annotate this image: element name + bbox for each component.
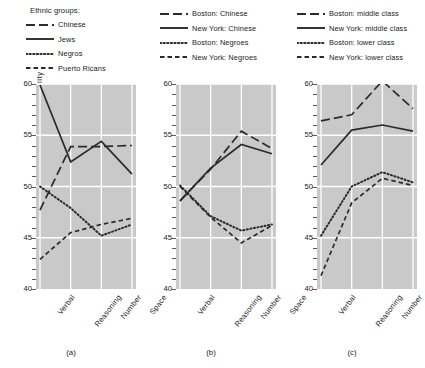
legend-item-b-0[interactable]: Boston: Chinese — [160, 7, 248, 20]
legend-item-c-3[interactable]: New York: lower class — [297, 51, 403, 64]
x-tick-label: Verbal — [337, 293, 358, 316]
y-tick-label: 55 — [152, 131, 172, 139]
legend-item-b-3[interactable]: New York: Negroes — [160, 51, 257, 64]
y-tick-label: 45 — [12, 234, 32, 242]
y-axis-ticks: 4045505560 — [150, 84, 172, 289]
y-tick-label: 50 — [152, 183, 172, 191]
legend-item-c-1[interactable]: New York: middle class — [297, 22, 407, 35]
legend-line-swatch-solid-icon — [26, 34, 54, 44]
y-axis-ticks: 4045505560 — [291, 84, 313, 289]
plot-area-b — [176, 84, 276, 289]
legend-item-label: New York: middle class — [329, 24, 407, 33]
y-tick-label: 60 — [293, 80, 313, 88]
y-axis-major-tick — [312, 289, 317, 290]
x-tick-label: Reasoning — [232, 293, 263, 329]
plot-canvas — [36, 84, 136, 289]
x-tick-label: Reasoning — [92, 293, 123, 329]
data-series-line — [321, 178, 413, 275]
data-series-line — [321, 125, 413, 165]
chart-panel-c: Boston: middle classNew York: middle cla… — [281, 0, 423, 368]
legend-item-label: Chinese — [58, 20, 86, 29]
y-tick-label: 40 — [12, 285, 32, 293]
y-tick-label: 45 — [293, 234, 313, 242]
x-tick-label: Number — [259, 293, 283, 321]
x-tick-label: Number — [400, 293, 424, 321]
legend-title: Ethnic groups: — [30, 6, 80, 15]
y-tick-label: 40 — [152, 285, 172, 293]
legend-item-label: Boston: Negroes — [192, 38, 249, 47]
legend-item-label: Boston: Chinese — [192, 9, 248, 18]
data-series-line — [180, 144, 272, 200]
y-tick-label: 55 — [293, 131, 313, 139]
legend-item-label: Negros — [58, 49, 82, 58]
legend-item-c-0[interactable]: Boston: middle class — [297, 7, 399, 20]
legend-line-swatch-short-dash-icon — [160, 52, 188, 62]
y-tick-label: 40 — [293, 285, 313, 293]
data-series-line — [321, 84, 413, 121]
data-series-line — [180, 187, 272, 243]
legend-item-label: New York: lower class — [329, 53, 403, 62]
plot-canvas — [317, 84, 417, 289]
legend-line-swatch-long-dash-icon — [160, 9, 188, 19]
legend-line-swatch-long-dash-icon — [297, 9, 325, 19]
y-axis-ticks: 4045505560 — [10, 84, 32, 289]
legend-item-c-2[interactable]: Boston: lower class — [297, 36, 395, 49]
legend-item-label: New York: Negroes — [192, 53, 257, 62]
legend-item-label: New York: Chinese — [192, 24, 256, 33]
legend-item-a-0[interactable]: Chinese — [26, 18, 86, 31]
y-axis-major-tick — [171, 289, 176, 290]
plot-area-a — [36, 84, 136, 289]
legend-line-swatch-dotted-icon — [160, 38, 188, 48]
y-tick-label: 60 — [152, 80, 172, 88]
y-tick-label: 50 — [12, 183, 32, 191]
y-tick-label: 55 — [12, 131, 32, 139]
legend-panel-c: Boston: middle classNew York: middle cla… — [281, 0, 423, 78]
legend-panel-b: Boston: ChineseNew York: ChineseBoston: … — [140, 0, 282, 78]
y-tick-label: 60 — [12, 80, 32, 88]
legend-item-label: Puerto Ricans — [58, 64, 106, 73]
x-tick-label: Verbal — [56, 293, 77, 316]
plot-area-c — [317, 84, 417, 289]
panel-caption-a: (a) — [0, 348, 142, 357]
data-series-line — [180, 185, 272, 230]
data-series-line — [180, 131, 272, 201]
legend-line-swatch-solid-icon — [160, 23, 188, 33]
x-tick-label: Reasoning — [373, 293, 404, 329]
panel-caption-c: (c) — [281, 348, 423, 357]
plot-canvas — [176, 84, 276, 289]
legend-item-label: Jews — [58, 35, 75, 44]
panel-caption-b: (b) — [140, 348, 282, 357]
y-tick-label: 50 — [293, 183, 313, 191]
legend-panel-a: Ethnic groups:ChineseJewsNegrosPuerto Ri… — [0, 0, 142, 78]
legend-line-swatch-dotted-icon — [297, 38, 325, 48]
chart-panel-b: Boston: ChineseNew York: ChineseBoston: … — [140, 0, 282, 368]
legend-item-b-2[interactable]: Boston: Negroes — [160, 36, 249, 49]
legend-line-swatch-solid-icon — [297, 23, 325, 33]
legend-item-a-1[interactable]: Jews — [26, 33, 75, 46]
legend-item-label: Boston: lower class — [329, 38, 395, 47]
legend-item-label: Boston: middle class — [329, 9, 399, 18]
data-series-line — [40, 146, 132, 211]
legend-line-swatch-long-dash-icon — [26, 20, 54, 30]
chart-panel-a: Ethnic groups:ChineseJewsNegrosPuerto Ri… — [0, 0, 142, 368]
data-series-line — [40, 85, 132, 174]
chart-figure: Ethnic groups:ChineseJewsNegrosPuerto Ri… — [0, 0, 425, 368]
y-tick-label: 45 — [152, 234, 172, 242]
x-tick-label: Verbal — [196, 293, 217, 316]
y-axis-major-tick — [31, 289, 36, 290]
legend-item-b-1[interactable]: New York: Chinese — [160, 22, 256, 35]
data-series-line — [40, 218, 132, 259]
legend-line-swatch-short-dash-icon — [297, 52, 325, 62]
